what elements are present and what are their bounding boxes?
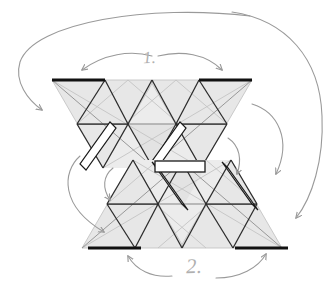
arrow-right-swoop	[252, 104, 283, 174]
arrow-top-fold-left	[82, 53, 152, 70]
diagram-canvas	[0, 0, 336, 284]
center-horizontal-flap	[155, 161, 205, 172]
arrow-top-fold-right	[158, 53, 222, 70]
arrow-bottom-left	[128, 256, 172, 276]
upper-triangle-cluster	[52, 80, 252, 170]
arrow-bottom-right	[216, 254, 266, 278]
lower-triangle-cluster	[82, 160, 288, 248]
folding-diagram: 1. 2.	[0, 0, 336, 284]
